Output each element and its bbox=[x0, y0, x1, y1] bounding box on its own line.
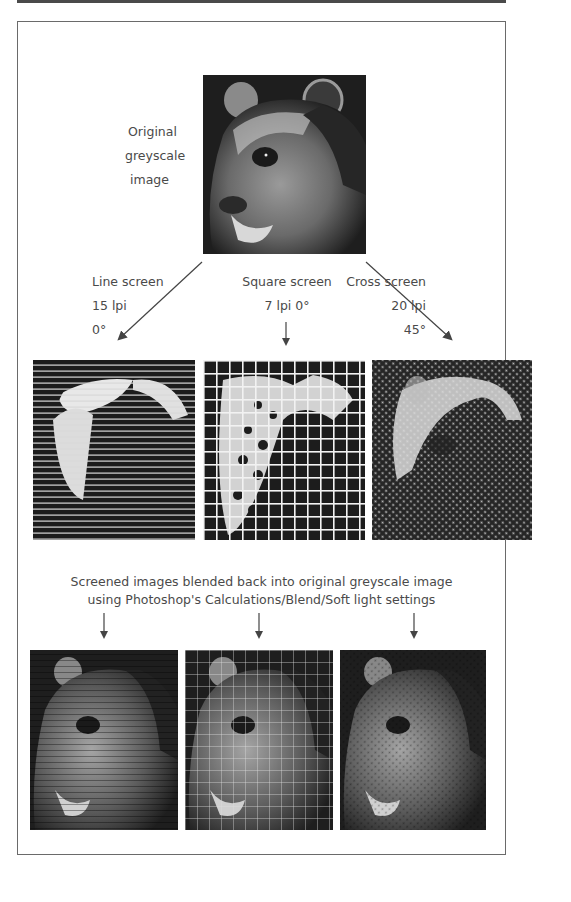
cross-screen-image bbox=[372, 360, 532, 540]
blend-caption-line-2: using Photoshop's Calculations/Blend/Sof… bbox=[17, 591, 506, 609]
line-screen-angle: 0° bbox=[92, 318, 106, 342]
square-screen-lpi-angle: 7 lpi 0° bbox=[222, 294, 352, 318]
arrow-to-square-screen-icon bbox=[280, 322, 292, 348]
line-screen-image bbox=[33, 360, 195, 540]
square-screen-image bbox=[203, 360, 365, 540]
figure-page: Original greyscale image bbox=[0, 0, 571, 902]
cross-screen-lpi: 20 lpi bbox=[340, 294, 426, 318]
original-bear-image bbox=[203, 75, 366, 254]
blended-square-image bbox=[185, 650, 333, 830]
arrow-down-2-icon bbox=[253, 613, 265, 641]
blended-line-image bbox=[30, 650, 178, 830]
cross-screen-angle: 45° bbox=[340, 318, 426, 342]
line-screen-lpi: 15 lpi bbox=[92, 294, 127, 318]
original-label-line-3: image bbox=[130, 168, 169, 192]
top-rule bbox=[17, 0, 506, 3]
line-screen-name: Line screen bbox=[92, 270, 164, 294]
cross-screen-name: Cross screen bbox=[340, 270, 426, 294]
square-screen-name: Square screen bbox=[222, 270, 352, 294]
original-label-line-2: greyscale bbox=[125, 144, 185, 168]
blend-caption-line-1: Screened images blended back into origin… bbox=[17, 573, 506, 591]
original-label-line-1: Original bbox=[128, 120, 177, 144]
blended-cross-image bbox=[340, 650, 486, 830]
arrow-down-1-icon bbox=[98, 613, 110, 641]
arrow-down-3-icon bbox=[408, 613, 420, 641]
